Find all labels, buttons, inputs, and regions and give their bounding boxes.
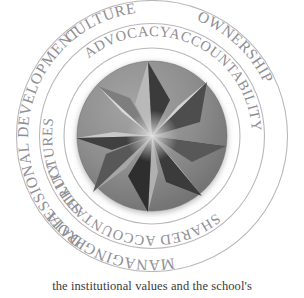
medallion-center-glow bbox=[126, 110, 178, 162]
caption-text: the institutional values and the school'… bbox=[0, 278, 304, 298]
center-medallion bbox=[76, 61, 227, 212]
wheel-diagram: CULTURE OWNERSHIP MANAGING DATA PROFESSI… bbox=[0, 0, 304, 272]
wheel-svg: CULTURE OWNERSHIP MANAGING DATA PROFESSI… bbox=[0, 0, 304, 272]
